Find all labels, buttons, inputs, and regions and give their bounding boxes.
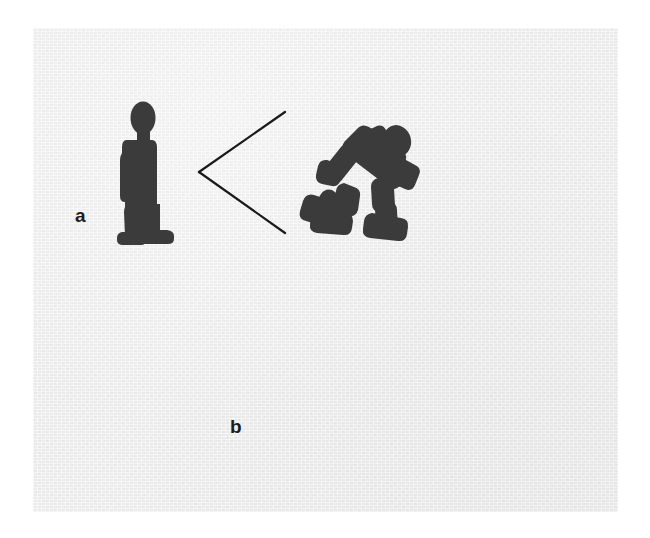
panel-label-a: a bbox=[75, 206, 86, 225]
panel-a-angle-lower-line bbox=[199, 172, 285, 233]
panel-a-standing-person-icon bbox=[117, 102, 174, 246]
panel-label-b: b bbox=[230, 417, 242, 436]
panel-a-running-person-icon bbox=[300, 122, 420, 241]
panel-a-angle-upper-line bbox=[199, 112, 285, 172]
panel-a bbox=[117, 102, 420, 246]
figure-root: a b bbox=[0, 0, 650, 538]
figure-illustration bbox=[0, 0, 650, 538]
panel-a-angle-marker bbox=[199, 112, 285, 233]
